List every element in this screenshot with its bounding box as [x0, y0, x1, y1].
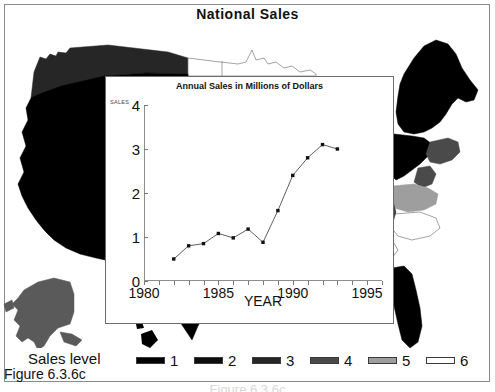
legend-swatch-5 [368, 357, 397, 364]
legend-item-4[interactable]: 4 [310, 351, 352, 367]
data-point [261, 241, 264, 244]
map-region-northern-plains [188, 50, 316, 76]
legend-swatch-4 [310, 357, 339, 364]
figure-caption-ghost: Figure 6.3.6c [0, 382, 495, 392]
map-region-alaska [4, 278, 82, 348]
data-point [202, 242, 205, 245]
y-tickmark [144, 105, 148, 106]
figure-page: National Sales [0, 0, 495, 392]
sales-line-series [144, 105, 382, 281]
x-tickmark [263, 281, 264, 285]
data-point [217, 232, 220, 235]
legend-item-2[interactable]: 2 [194, 351, 236, 367]
y-tickmark [144, 193, 148, 194]
inset-chart-title: Annual Sales in Millions of Dollars [106, 81, 393, 91]
inset-chart-panel: Annual Sales in Millions of Dollars SALE… [105, 76, 394, 324]
x-tickmark [323, 281, 324, 285]
legend-item-1[interactable]: 1 [136, 351, 178, 367]
y-tick-label: 1 [132, 230, 140, 245]
legend-swatch-2 [194, 357, 223, 364]
data-point [306, 156, 309, 159]
data-point [246, 227, 249, 230]
y-tickmark [144, 149, 148, 150]
x-tickmark [248, 281, 249, 285]
y-tickmark [144, 237, 148, 238]
data-point [172, 257, 175, 260]
y-tick-label: 3 [132, 142, 140, 157]
data-point [291, 174, 294, 177]
legend-item-3[interactable]: 3 [252, 351, 294, 367]
y-tick-label: 4 [132, 98, 140, 113]
legend-swatch-1 [136, 357, 165, 364]
legend-title: Sales level [28, 350, 101, 367]
legend-label-4: 4 [344, 353, 352, 368]
plot-area: 0 1 2 3 4 1980 1985 199 [144, 105, 382, 281]
data-point [232, 236, 235, 239]
x-tickmark [337, 281, 338, 285]
legend-label-6: 6 [460, 353, 468, 368]
map-region-west-coast [18, 76, 105, 260]
data-point [321, 143, 324, 146]
figure-caption: Figure 6.3.6c [4, 366, 86, 382]
legend-item-5[interactable]: 5 [368, 351, 410, 367]
x-axis-label: YEAR [144, 293, 382, 309]
legend-item-6[interactable]: 6 [426, 351, 468, 367]
data-point [276, 209, 279, 212]
legend-label-3: 3 [286, 353, 294, 368]
x-tickmark [189, 281, 190, 285]
map-region-carolinas [390, 212, 440, 240]
map-region-virginia [388, 184, 438, 212]
legend-label-5: 5 [402, 353, 410, 368]
data-point [187, 244, 190, 247]
y-tick-label: 2 [132, 186, 140, 201]
data-point [336, 147, 339, 150]
y-axis-label: SALES [110, 99, 129, 105]
page-title: National Sales [0, 6, 495, 22]
legend-swatch-3 [252, 357, 281, 364]
legend-swatch-6 [426, 357, 455, 364]
legend-label-1: 1 [170, 353, 178, 368]
legend-label-2: 2 [228, 353, 236, 368]
x-tickmark [174, 281, 175, 285]
